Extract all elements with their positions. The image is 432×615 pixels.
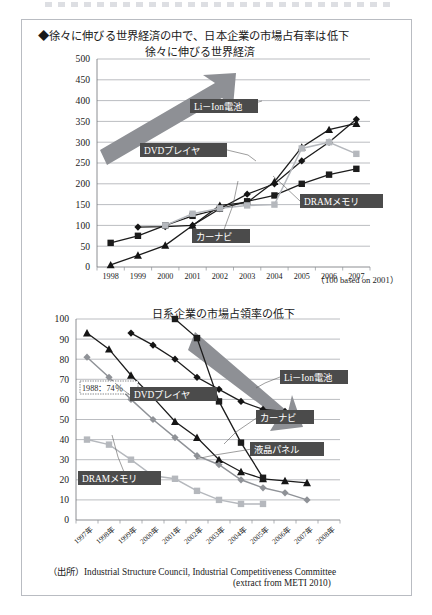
y-tick-label: 50 (80, 241, 90, 252)
chart2-x-axis-labels: 1997年1998年1999年2000年2001年2002年2003年2004年… (72, 524, 337, 546)
page-heading: ◆徐々に伸びる世界経済の中で、日本企業の市場占有率は低下 (38, 27, 349, 43)
data-point (260, 475, 266, 481)
data-point (105, 345, 113, 352)
data-point (353, 151, 359, 157)
y-tick-label: 20 (59, 474, 69, 485)
data-point (237, 468, 245, 475)
x-tick-label: 2006年 (270, 524, 293, 546)
x-tick-label: 2000年 (138, 524, 161, 546)
data-point (271, 192, 277, 198)
data-point (83, 329, 91, 336)
x-tick-label: 2005 (294, 272, 310, 281)
y-tick-label: 10 (59, 494, 69, 505)
chart1-svg: 050100150200250300350400450500 199819992… (0, 55, 420, 290)
data-point (216, 497, 222, 503)
chart2-svg: 0102030405060708090100 1997年1998年1999年20… (0, 317, 420, 552)
chart2-callout-lcd-text: 液晶パネル (254, 444, 299, 455)
x-tick-label: 2002年 (182, 524, 205, 546)
chart1-callout-dram-text: DRAMメモリ (304, 197, 359, 207)
y-tick-label: 0 (64, 514, 69, 525)
data-point (84, 436, 90, 442)
y-tick-label: 60 (59, 394, 69, 405)
y-tick-label: 400 (76, 95, 91, 106)
source-line-1: （出所）Industrial Structure Council, Indust… (48, 564, 336, 578)
data-point (238, 501, 244, 507)
data-point (106, 441, 112, 447)
data-point (326, 139, 332, 145)
y-tick-label: 350 (76, 116, 91, 127)
y-tick-label: 150 (76, 199, 91, 210)
chart2-annotation-text: 1988：74％ (82, 384, 123, 393)
x-tick-label: 2004 (266, 272, 282, 281)
x-tick-label: 2001年 (160, 524, 183, 546)
chart2-callout-carnavi-text: カーナビ (260, 413, 296, 423)
chart1: 050100150200250300350400450500 199819992… (0, 55, 420, 290)
y-tick-label: 100 (76, 220, 91, 231)
data-point (135, 233, 141, 239)
data-point (107, 240, 113, 246)
document-page: ◆徐々に伸びる世界経済の中で、日本企業の市場占有率は低下 徐々に伸びる世界経済 … (0, 0, 432, 615)
data-point (299, 145, 305, 151)
x-tick-label: 2004年 (226, 524, 249, 546)
y-tick-label: 500 (76, 53, 91, 64)
y-tick-label: 450 (76, 74, 91, 85)
x-tick-label: 1999年 (116, 524, 139, 546)
data-point (189, 211, 195, 217)
x-tick-label: 1999 (130, 272, 146, 281)
y-tick-label: 70 (59, 374, 69, 385)
source-line-2: (extract from METI 2010) (233, 578, 331, 588)
data-point (271, 201, 277, 207)
y-tick-label: 80 (59, 354, 69, 365)
data-point (259, 484, 266, 491)
y-tick-label: 200 (76, 178, 91, 189)
data-point (194, 335, 200, 341)
chart1-callout-li-ion: Li－Ion電池 (190, 99, 262, 113)
y-tick-label: 100 (55, 313, 70, 324)
chart1-callout-dram: DRAMメモリ (273, 176, 383, 208)
y-tick-label: 30 (59, 454, 69, 465)
data-point (260, 501, 266, 507)
x-tick-label: 2003 (239, 272, 255, 281)
data-point (134, 251, 142, 258)
data-point (193, 434, 201, 441)
chart2-callout-dram-text: DRAMメモリ (82, 474, 137, 484)
x-tick-label: 2005年 (248, 524, 271, 546)
data-point (149, 342, 156, 349)
y-tick-label: 40 (59, 434, 69, 445)
x-tick-label: 1997年 (72, 524, 95, 546)
x-tick-label: 2002 (212, 272, 228, 281)
data-point (326, 171, 332, 177)
y-tick-label: 250 (76, 157, 91, 168)
x-tick-label: 1998 (103, 272, 119, 281)
data-point (237, 398, 244, 405)
x-tick-label: 1998年 (94, 524, 117, 546)
data-point (194, 488, 200, 494)
chart2-callout-dvd-text: DVDプレイヤ (134, 390, 190, 400)
data-point (281, 489, 288, 496)
data-point (162, 222, 168, 228)
data-point (244, 191, 251, 198)
chart1-callout-dvd-text: DVDプレイヤ (144, 146, 200, 156)
data-point (217, 205, 223, 211)
y-tick-label: 0 (85, 261, 90, 272)
chart2-x-tickmarks (76, 520, 340, 524)
chart2-y-axis-labels: 0102030405060708090100 (55, 313, 70, 525)
x-tick-label: 2000 (157, 272, 173, 281)
data-point (127, 329, 134, 336)
data-point (299, 181, 305, 187)
data-point (161, 241, 169, 248)
chart2-annotation-1988: 1988：74％ (80, 381, 138, 394)
data-point (303, 496, 310, 503)
data-point (172, 316, 178, 322)
chart1-y-axis-labels: 050100150200250300350400450500 (76, 53, 91, 272)
x-tick-label: 2007年 (292, 524, 315, 546)
x-tick-label: 2008年 (314, 524, 337, 546)
series-line (138, 119, 356, 227)
data-point (134, 223, 141, 230)
data-point (244, 202, 250, 208)
data-point (352, 119, 360, 126)
cut-off-header-text (0, 0, 432, 12)
data-point (353, 166, 359, 172)
x-tick-label: 2001 (184, 272, 200, 281)
data-point (238, 439, 244, 445)
